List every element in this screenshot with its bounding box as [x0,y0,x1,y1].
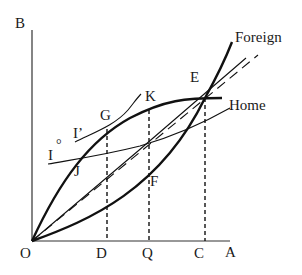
indifference-label-I-prime: I’ [73,125,83,141]
home-label: Home [229,97,266,113]
indifference-label-I: I [48,147,53,163]
y-axis-label: B [15,15,25,31]
point-G-label: G [100,107,111,123]
foreign-curve [32,42,232,241]
point-E-label: E [190,69,199,85]
indifference-degree-mark: ° [56,137,62,152]
x-axis-label: A [225,244,236,260]
foreign-label: Foreign [235,29,282,45]
tick-label-Q: Q [142,245,153,261]
point-F-label: F [150,173,158,189]
point-J-label: J [74,163,80,179]
price-line [32,58,246,241]
tick-label-C: C [194,245,204,261]
point-K-label: K [145,88,156,104]
diagram-canvas: B A O D Q C Foreign Home E G K F J I’ I … [0,0,302,275]
ray-OE-dashed [32,55,258,241]
tick-label-D: D [96,245,107,261]
origin-label: O [20,245,31,261]
